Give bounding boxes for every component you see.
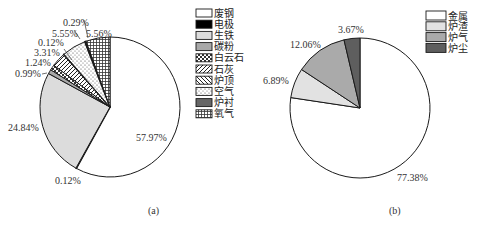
legend-swatch: [196, 9, 212, 17]
legend-label: 炉气: [448, 31, 468, 43]
legend-label: 金属: [448, 10, 468, 22]
legend-label: 空气: [214, 85, 234, 97]
legend-swatch: [196, 20, 212, 28]
label-shihui: 3.31%: [34, 47, 60, 58]
legend-swatch: [196, 43, 212, 51]
pie-chart-b: [290, 38, 430, 178]
figure: 废钢电极生铁碳粉白云石石灰炉顶空气炉衬氧气 57.97% 0.12% 24.84…: [0, 0, 478, 226]
leader-line: [42, 73, 47, 74]
label-kongqi: 5.55%: [52, 28, 78, 39]
label-tanfen: 0.99%: [15, 68, 41, 79]
legend-a: 废钢电极生铁碳粉白云石石灰炉顶空气炉衬氧气: [196, 7, 244, 120]
caption-b: (b): [389, 205, 401, 217]
legend-swatch: [426, 33, 446, 42]
label-luqi: 12.06%: [290, 39, 321, 50]
legend-swatch: [426, 22, 446, 31]
legend-label: 废钢: [214, 7, 234, 19]
legend-swatch: [426, 11, 446, 20]
label-luchen-b: 3.67%: [338, 24, 364, 35]
label-baiyunshi: 1.24%: [25, 57, 51, 68]
legend-label: 炉顶: [214, 75, 234, 86]
legend-label: 石灰: [214, 63, 234, 75]
label-luzha: 6.89%: [263, 75, 289, 86]
label-dianji: 0.12%: [55, 175, 81, 186]
label-yangqi: 5.56%: [86, 28, 112, 39]
label-luchen: 0.29%: [63, 17, 89, 28]
legend-swatch: [196, 54, 212, 62]
legend-swatch: [196, 99, 212, 107]
legend-label: 电极: [214, 18, 234, 30]
caption-a: (a): [148, 205, 159, 217]
label-jinshu: 77.38%: [397, 172, 428, 183]
label-feigang: 57.97%: [136, 132, 167, 143]
legend-swatch: [196, 31, 212, 39]
legend-swatch: [426, 43, 446, 52]
legend-swatch: [196, 110, 212, 118]
legend-label: 生铁: [214, 29, 234, 41]
legend-swatch: [196, 65, 212, 73]
legend-label: 炉衬: [214, 96, 234, 108]
legend-b: 金属炉渣炉气炉尘: [426, 10, 468, 54]
legend-swatch: [196, 87, 212, 95]
legend-label: 炉尘: [448, 43, 468, 54]
label-shengtie: 24.84%: [8, 122, 39, 133]
legend-swatch: [196, 76, 212, 84]
legend-label: 白云石: [214, 51, 244, 63]
legend-label: 氧气: [214, 107, 234, 119]
pie-chart-a: [40, 37, 180, 177]
legend-label: 碳粉: [214, 40, 234, 52]
legend-label: 炉渣: [448, 20, 468, 32]
